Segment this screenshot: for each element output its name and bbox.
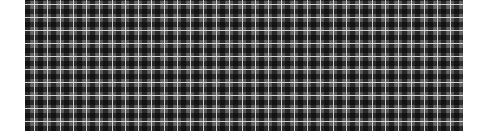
plaid-pattern-image (25, 0, 463, 131)
